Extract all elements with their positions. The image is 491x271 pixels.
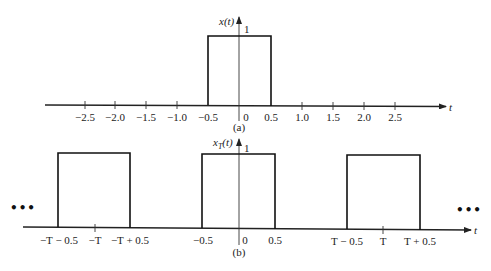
t-axis-label-b: t [474,224,478,236]
caption-a: (a) [233,121,246,134]
svg-text:−2.0: −2.0 [105,111,125,123]
caption-b: (b) [233,246,246,259]
svg-text:2.5: 2.5 [388,111,402,123]
ellipsis-left: ••• [10,201,36,215]
y-axis-label-b: xT(t) [212,136,233,151]
t-axis-a [45,105,446,107]
svg-text:1.5: 1.5 [326,111,340,123]
figure-a: t x(t) 1 −2.5 −2.0 −1.5 −1.0 −0.5 0 0.5 [45,15,453,134]
pulse-b-right [347,155,420,230]
svg-text:−0.5: −0.5 [198,111,218,123]
svg-text:−T: −T [89,234,102,246]
svg-text:0.5: 0.5 [264,111,278,123]
svg-text:1.0: 1.0 [295,111,309,123]
svg-text:−2.5: −2.5 [75,111,95,123]
svg-text:T: T [380,235,387,247]
t-axis-b [23,227,471,230]
svg-text:0: 0 [242,234,248,246]
svg-text:2.0: 2.0 [357,111,371,123]
svg-text:−T + 0.5: −T + 0.5 [111,234,150,246]
amplitude-label-b: 1 [244,142,250,154]
svg-text:0.5: 0.5 [268,234,282,246]
svg-text:−T − 0.5: −T − 0.5 [40,234,79,246]
t-axis-label-a: t [449,101,453,113]
pulse-a [208,36,271,106]
svg-text:−0.5: −0.5 [193,234,213,246]
y-axis-label-a: x(t) [218,15,235,28]
svg-text:−1.5: −1.5 [136,111,156,123]
ellipsis-right: ••• [456,203,482,217]
pulse-b-left [58,153,130,228]
svg-text:−1.0: −1.0 [167,111,187,123]
svg-text:T − 0.5: T − 0.5 [331,235,363,247]
pulse-b-center [202,154,275,229]
figure-canvas: t x(t) 1 −2.5 −2.0 −1.5 −1.0 −0.5 0 0.5 [0,0,491,271]
svg-text:T + 0.5: T + 0.5 [404,235,436,247]
figure-b: t xT(t) 1 ••• ••• −T − 0.5 −T −T + 0.5 −… [10,136,482,259]
amplitude-label-a: 1 [244,23,250,35]
